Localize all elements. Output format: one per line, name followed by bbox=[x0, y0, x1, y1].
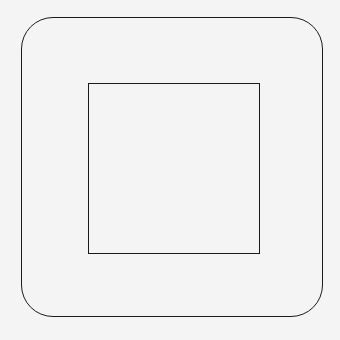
inner-square bbox=[88, 83, 260, 254]
